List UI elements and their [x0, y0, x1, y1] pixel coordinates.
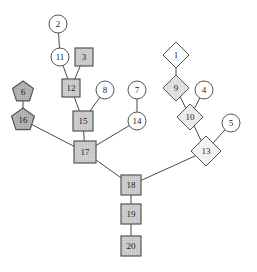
node-shape-diamond-13[interactable] [191, 136, 221, 166]
node-17[interactable]: 17 [74, 141, 96, 163]
node-5[interactable]: 5 [222, 114, 240, 132]
node-14[interactable]: 14 [128, 112, 146, 130]
node-18[interactable]: 18 [121, 175, 141, 195]
graph-diagram: 1234567891011121314151617181920 [0, 0, 257, 272]
node-3[interactable]: 3 [75, 48, 93, 66]
node-shape-square-12[interactable] [62, 79, 80, 97]
node-16[interactable]: 16 [12, 108, 35, 130]
node-shape-square-20[interactable] [121, 236, 141, 256]
node-shape-square-18[interactable] [121, 175, 141, 195]
node-20[interactable]: 20 [121, 236, 141, 256]
node-shape-square-15[interactable] [73, 111, 93, 131]
node-shape-circle-11[interactable] [51, 48, 69, 66]
node-shape-diamond-1[interactable] [163, 42, 189, 68]
node-shape-square-17[interactable] [74, 141, 96, 163]
node-1[interactable]: 1 [163, 42, 189, 68]
node-12[interactable]: 12 [62, 79, 80, 97]
node-shape-circle-5[interactable] [222, 114, 240, 132]
node-shape-circle-8[interactable] [96, 81, 114, 99]
node-8[interactable]: 8 [96, 81, 114, 99]
nodes-layer: 1234567891011121314151617181920 [12, 15, 240, 256]
node-shape-circle-7[interactable] [128, 81, 146, 99]
node-10[interactable]: 10 [177, 104, 203, 130]
node-19[interactable]: 19 [121, 204, 141, 224]
node-15[interactable]: 15 [73, 111, 93, 131]
node-shape-circle-2[interactable] [49, 15, 67, 33]
node-2[interactable]: 2 [49, 15, 67, 33]
node-9[interactable]: 9 [163, 75, 189, 101]
node-13[interactable]: 13 [191, 136, 221, 166]
node-shape-square-19[interactable] [121, 204, 141, 224]
node-shape-circle-4[interactable] [195, 81, 213, 99]
node-6[interactable]: 6 [13, 81, 34, 101]
node-shape-square-3[interactable] [75, 48, 93, 66]
node-shape-pentagon-6[interactable] [13, 81, 34, 101]
node-4[interactable]: 4 [195, 81, 213, 99]
edge-13-18 [131, 151, 206, 185]
graph-canvas: 1234567891011121314151617181920 [0, 0, 257, 272]
node-shape-diamond-9[interactable] [163, 75, 189, 101]
node-shape-pentagon-16[interactable] [12, 108, 35, 130]
node-shape-diamond-10[interactable] [177, 104, 203, 130]
node-7[interactable]: 7 [128, 81, 146, 99]
node-11[interactable]: 11 [51, 48, 69, 66]
node-shape-circle-14[interactable] [128, 112, 146, 130]
